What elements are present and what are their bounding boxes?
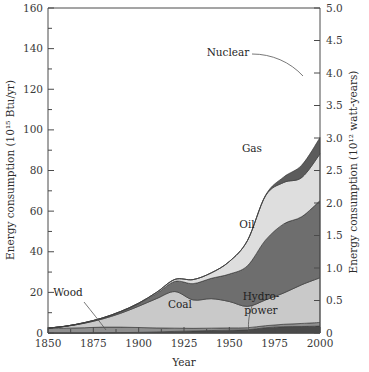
y-tick-label-right-5: 5.0: [326, 2, 343, 14]
y-axis-title-left: Energy consumption (10¹⁵ Btu/yr): [4, 80, 16, 260]
y-tick-label-left-100: 100: [23, 123, 43, 135]
y-tick-label-right-2: 2.0: [326, 197, 343, 209]
series-label-wood: Wood: [53, 286, 83, 298]
x-tick-label-1900: 1900: [125, 337, 152, 349]
series-label-gas: Gas: [242, 142, 262, 154]
y-tick-label-right-3-5: 3.5: [326, 99, 343, 111]
x-tick-label-1925: 1925: [171, 337, 198, 349]
y-tick-label-right-1-5: 1.5: [326, 229, 343, 241]
x-axis-title: Year: [171, 356, 196, 368]
y-tick-label-left-60: 60: [30, 205, 43, 217]
x-tick-label-1875: 1875: [80, 337, 107, 349]
y-tick-label-left-20: 20: [30, 286, 43, 298]
y-tick-label-right-4: 4.0: [326, 67, 343, 79]
x-tick-label-1850: 1850: [35, 337, 62, 349]
y-tick-label-right-2-5: 2.5: [326, 164, 343, 176]
series-label-power: power: [244, 304, 278, 316]
chart-canvas: 02040608010012014016000.51.01.52.02.53.0…: [0, 0, 369, 372]
y-tick-label-left-120: 120: [23, 83, 43, 95]
x-tick-label-1975: 1975: [261, 337, 288, 349]
series-label-oil: Oil: [239, 218, 255, 230]
series-label-hydro-: Hydro-: [243, 290, 280, 302]
y-tick-label-left-160: 160: [23, 2, 43, 14]
x-tick-label-1950: 1950: [216, 337, 243, 349]
y-tick-label-right-0-5: 0.5: [326, 294, 343, 306]
series-label-coal: Coal: [168, 298, 193, 310]
y-tick-label-right-1: 1.0: [326, 262, 343, 274]
y-axis-title-right: Energy consumption (10¹² watt-years): [347, 71, 359, 274]
x-tick-label-2000: 2000: [307, 337, 334, 349]
y-tick-label-left-80: 80: [30, 164, 43, 176]
y-tick-label-right-4-5: 4.5: [326, 34, 343, 46]
energy-consumption-area-chart: 02040608010012014016000.51.01.52.02.53.0…: [0, 0, 369, 372]
y-tick-label-left-140: 140: [23, 42, 43, 54]
y-tick-label-right-3: 3.0: [326, 132, 343, 144]
series-label-nuclear: Nuclear: [207, 46, 251, 58]
y-tick-label-left-40: 40: [30, 245, 43, 257]
